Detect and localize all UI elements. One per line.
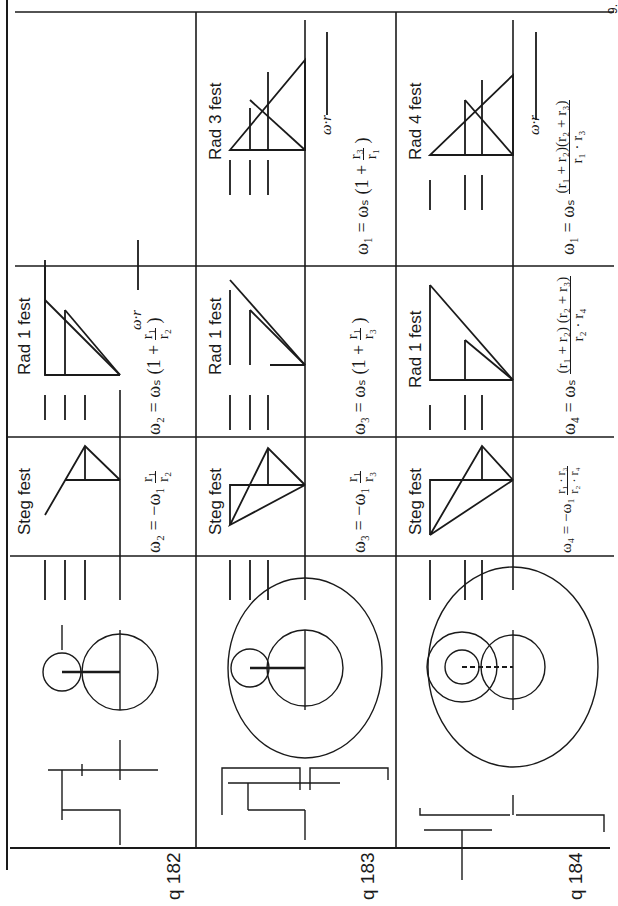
row-label-q182: q 182 <box>163 852 185 900</box>
corner-mark: 9. <box>606 4 618 14</box>
axis-label-q183: ω·r <box>318 115 335 135</box>
case-title-q182-steg: Steg fest <box>15 468 35 535</box>
case-title-q183-steg: Steg fest <box>206 468 226 535</box>
document-page: 9. Rad 3 fest Rad 4 fest Rad 1 fest Rad … <box>0 0 618 906</box>
gear-drawing-q184 <box>420 567 604 880</box>
row-label-q183: q 183 <box>357 852 379 900</box>
case-title-q184-steg: Steg fest <box>406 468 426 535</box>
formula-q184-rad4: ω₁ = ωₛ (r₁ + r₂)(r₂ + r₃)r₁ · r₃ <box>554 100 585 255</box>
formula-q183-rad1: ω₃ = ωₛ (1 + r₁r₃ ) <box>345 317 376 435</box>
case-title-q182-rad1: Rad 1 fest <box>15 298 35 376</box>
case-title-q183-rad1: Rad 1 fest <box>206 298 226 376</box>
diagram-q183-rad3 <box>230 32 327 195</box>
case-title-q184-rad1: Rad 1 fest <box>406 311 426 389</box>
axis-label-q184: ω·r <box>526 115 543 135</box>
diagram-q184-steg <box>430 446 513 600</box>
diagram-q184-rad4 <box>430 32 536 210</box>
gear-drawing-q183 <box>222 578 388 840</box>
diagram-q182-rad1 <box>45 240 138 420</box>
diagram-q182-steg <box>45 446 120 600</box>
formula-q184-steg: ω₄ = −ω₁ r₁ · r₃r₂ · r₄ <box>555 466 580 553</box>
diagram-q184-rad1 <box>430 285 513 430</box>
formula-q182-rad1: ω₂ = ωₛ (1 + r₁r₂ ) <box>140 317 171 435</box>
formula-q184-rad1: ω₄ = ωₛ (r₁ + r₂) (r₂ + r₃)r₂ · r₄ <box>555 276 586 435</box>
formula-q183-rad3: ω₁ = ωₛ (1 + r₃r₁ ) <box>348 137 379 255</box>
diagram-q183-rad1 <box>230 280 305 430</box>
gear-drawing-q182 <box>43 625 158 845</box>
case-title-q184-rad4: Rad 4 fest <box>406 83 426 161</box>
row-label-q184: q 184 <box>565 852 587 900</box>
formula-q183-steg: ω₃ = −ω₁ r₁r₃ <box>345 471 376 553</box>
formula-q182-steg: ω₂ = −ω₁ r₁r₂ <box>140 471 171 553</box>
table-grid-and-diagrams <box>0 0 618 906</box>
case-title-q183-rad3: Rad 3 fest <box>206 83 226 161</box>
diagram-q183-steg <box>230 448 305 600</box>
